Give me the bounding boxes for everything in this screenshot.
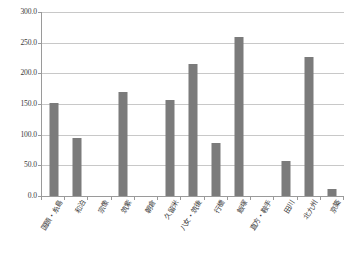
y-tick-label: 250.0	[20, 39, 37, 47]
plot-area	[41, 12, 344, 197]
y-tick-label: 0.0	[28, 192, 37, 200]
x-tick-mark	[87, 196, 88, 200]
x-tick-mark	[343, 196, 344, 200]
bar-slot	[135, 12, 158, 196]
y-tick-label: 100.0	[20, 131, 37, 139]
bar[interactable]	[328, 189, 337, 196]
x-tick-mark	[297, 196, 298, 200]
bar-chart: 300.0 250.0 200.0 150.0 100.0 50.0 0.0 国…	[0, 0, 351, 256]
x-tick-mark	[204, 196, 205, 200]
x-tick-mark	[64, 196, 65, 200]
y-tick-label: 50.0	[24, 162, 37, 170]
bar[interactable]	[188, 64, 197, 196]
bar[interactable]	[72, 138, 81, 196]
y-axis: 300.0 250.0 200.0 150.0 100.0 50.0 0.0	[0, 0, 40, 256]
bar-slot	[88, 12, 111, 196]
bar-slot	[274, 12, 297, 196]
bar-slot	[321, 12, 344, 196]
bar-slot	[42, 12, 65, 196]
x-tick-mark	[111, 196, 112, 200]
y-tick-label: 300.0	[20, 8, 37, 16]
x-tick-mark	[250, 196, 251, 200]
y-tick-label: 150.0	[20, 100, 37, 108]
bar[interactable]	[165, 100, 174, 196]
bar-slot	[228, 12, 251, 196]
bar[interactable]	[119, 92, 128, 196]
x-axis: 国頭・糸島和泊宗像筑紫朝倉久留米八女・筑後行橋飯塚直方・鞍手田川北九州京築	[41, 200, 343, 256]
bar[interactable]	[235, 37, 244, 196]
bar[interactable]	[305, 57, 314, 196]
bar[interactable]	[281, 161, 290, 196]
x-tick-mark	[320, 196, 321, 200]
x-tick-mark	[180, 196, 181, 200]
x-tick-mark	[41, 196, 42, 200]
bar-slot	[181, 12, 204, 196]
x-tick-mark	[227, 196, 228, 200]
bar[interactable]	[212, 143, 221, 196]
bar-slot	[65, 12, 88, 196]
bar-slot	[158, 12, 181, 196]
y-tick-label: 200.0	[20, 70, 37, 78]
x-tick-mark	[134, 196, 135, 200]
bar[interactable]	[49, 103, 58, 196]
x-tick-mark	[157, 196, 158, 200]
bar-slot	[112, 12, 135, 196]
bars-layer	[42, 12, 344, 196]
bar-slot	[251, 12, 274, 196]
bar-slot	[298, 12, 321, 196]
bar-slot	[205, 12, 228, 196]
x-tick-mark	[273, 196, 274, 200]
